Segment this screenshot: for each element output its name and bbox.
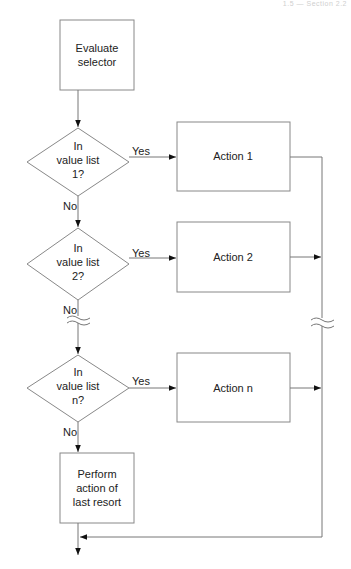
break-mark-right — [310, 318, 334, 328]
decision-n-no-label: No — [63, 426, 77, 438]
decision-n-diamond: In value list n? — [27, 355, 129, 422]
decision-2-line2: value list — [57, 256, 100, 268]
decision-1-line2: value list — [57, 154, 100, 166]
action-2-label: Action 2 — [213, 251, 253, 263]
decision-1-line1: In — [73, 140, 82, 152]
decision-1-no-label: No — [63, 200, 77, 212]
last-resort-line2: action of — [76, 482, 119, 494]
decision-2-line3: 2? — [72, 270, 84, 282]
evaluate-selector-line1: Evaluate — [76, 42, 119, 54]
evaluate-selector-line2: selector — [78, 56, 117, 68]
decision-2-line1: In — [73, 242, 82, 254]
decision-2-diamond: In value list 2? — [27, 228, 129, 300]
return-line-right — [290, 157, 322, 537]
decision-n-line2: value list — [57, 380, 100, 392]
decision-n-line1: In — [73, 366, 82, 378]
decision-1-line3: 1? — [72, 168, 84, 180]
action-n-box: Action n — [177, 353, 290, 422]
last-resort-box: Perform action of last resort — [60, 453, 134, 523]
last-resort-line3: last resort — [73, 496, 121, 508]
decision-n-yes-label: Yes — [132, 375, 150, 387]
action-n-label: Action n — [213, 382, 253, 394]
evaluate-selector-box: Evaluate selector — [60, 20, 134, 90]
action-1-label: Action 1 — [213, 150, 253, 162]
decision-2-no-label: No — [63, 304, 77, 316]
last-resort-line1: Perform — [77, 468, 116, 480]
action-1-box: Action 1 — [177, 122, 290, 191]
decision-n-line3: n? — [72, 394, 84, 406]
decision-1-diamond: In value list 1? — [27, 128, 129, 196]
decision-2-yes-label: Yes — [132, 247, 150, 259]
action-2-box: Action 2 — [177, 222, 290, 292]
decision-1-yes-label: Yes — [132, 145, 150, 157]
flowchart-canvas: Evaluate selector In value list 1? Yes N… — [0, 0, 351, 569]
